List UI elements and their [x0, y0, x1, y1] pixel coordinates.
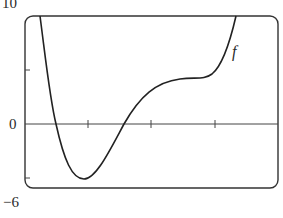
plot-frame [25, 16, 278, 188]
curve-f [40, 16, 236, 179]
plot-area [0, 0, 283, 218]
y-max-label: 10 [2, 0, 17, 11]
y-min-label: −6 [3, 195, 19, 210]
curve-label-f: f [232, 44, 236, 59]
y-zero-label: 0 [9, 117, 17, 132]
